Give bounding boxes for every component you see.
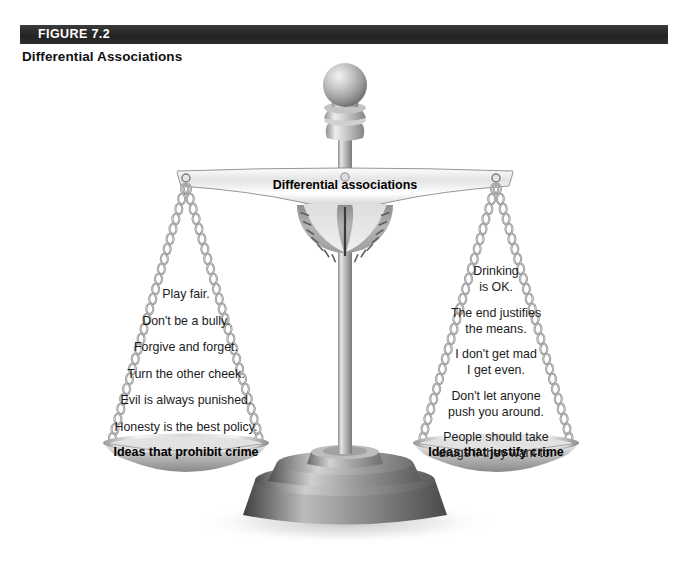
idea-text-line: I don't get mad [455, 347, 537, 361]
idea-text-line: Don't be a bully. [142, 314, 230, 328]
scale-base [243, 445, 447, 525]
idea-text-line: Turn the other cheek. [127, 367, 244, 381]
idea-text-line: The end justifies [451, 306, 541, 320]
idea-text-line: the means. [465, 322, 526, 336]
scale-finial [323, 63, 367, 141]
idea-text-line: People should take [443, 430, 549, 444]
idea-text-line: Drinking [473, 264, 519, 278]
figure-header-bar [20, 25, 668, 44]
idea-text-line: Forgive and forget. [134, 340, 238, 354]
right-pan-idea-list: Drinkingis OK.The end justifiesthe means… [439, 264, 553, 460]
idea-text-line: drugs if they want to. [439, 446, 553, 460]
figure-number-label: FIGURE 7.2 [38, 27, 110, 41]
idea-text-line: I get even. [467, 363, 525, 377]
idea-text-line: Play fair. [162, 287, 210, 301]
left-pan-label: Ideas that prohibit crime [113, 445, 258, 459]
idea-text-line: Don't let anyone [451, 389, 540, 403]
left-pan-idea-list: Play fair.Don't be a bully.Forgive and f… [114, 287, 257, 434]
idea-text-line: is OK. [479, 280, 513, 294]
beam-label: Differential associations [273, 178, 418, 192]
balance-scale-illustration: Ideas that prohibit crime Ideas that jus… [0, 60, 691, 563]
idea-text-line: push you around. [448, 405, 544, 419]
idea-text-line: Honesty is the best policy. [114, 420, 257, 434]
idea-text-line: Evil is always punished. [121, 393, 252, 407]
scale-dial [297, 204, 393, 262]
